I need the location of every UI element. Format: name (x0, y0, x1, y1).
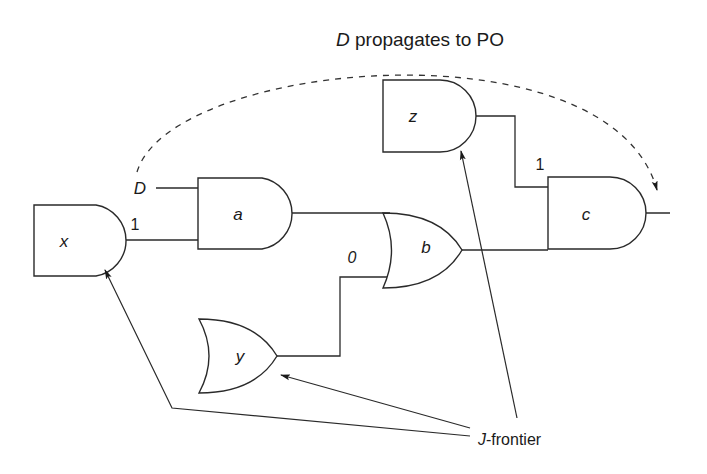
pointer-to-x (105, 270, 470, 436)
gate-c: c (548, 177, 646, 249)
gate-a: a (198, 178, 292, 249)
value-label-y-b: 0 (348, 249, 357, 266)
j-frontier-pointers (105, 151, 517, 436)
gate-y: y (199, 319, 277, 393)
gate-z: z (383, 80, 476, 152)
gate-x-label: x (59, 232, 69, 251)
gate-b-label: b (421, 238, 430, 257)
pointer-to-z (461, 151, 517, 418)
pointer-to-y (281, 375, 470, 428)
gate-x: x (34, 205, 126, 276)
propagation-title: D propagates to PO (336, 29, 504, 50)
gate-z-label: z (408, 107, 418, 126)
value-label-z-c: 1 (536, 156, 545, 173)
circuit-diagram: D propagates to PO x a b y z c (0, 0, 707, 474)
gate-b: b (383, 213, 462, 288)
gate-c-label: c (582, 205, 591, 224)
value-label-x-a: 1 (131, 216, 140, 233)
wire-y-to-b (277, 277, 392, 356)
d-input-label: D (134, 179, 146, 198)
j-frontier-label: J-frontier (477, 431, 542, 448)
gate-a-label: a (233, 205, 242, 224)
gate-y-label: y (235, 347, 246, 366)
